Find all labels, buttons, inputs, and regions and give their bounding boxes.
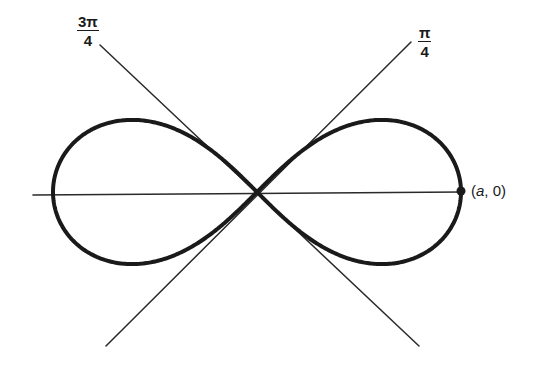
point-a-0-label: (a, 0) bbox=[471, 182, 506, 199]
point-a-0-marker bbox=[457, 187, 466, 196]
label-pi-over-4-numerator: π bbox=[418, 25, 431, 42]
label-pi-over-4: π 4 bbox=[418, 25, 431, 59]
label-pi-over-4-denominator: 4 bbox=[421, 42, 429, 59]
label-3pi-over-4-numerator: 3π bbox=[77, 14, 99, 31]
polar-axis bbox=[33, 192, 462, 195]
point-label-rest: , 0) bbox=[484, 182, 506, 199]
label-3pi-over-4-denominator: 4 bbox=[84, 31, 92, 48]
lemniscate-diagram bbox=[0, 0, 538, 375]
label-3pi-over-4: 3π 4 bbox=[77, 14, 99, 48]
